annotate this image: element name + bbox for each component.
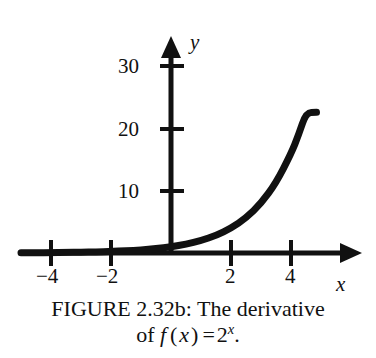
caption-line-1: FIGURE 2.32b: The derivative <box>0 296 376 322</box>
x-axis-label: x <box>336 274 345 295</box>
y-tick-label-30: 30 <box>118 56 139 77</box>
figure-container: −4 −2 2 4 10 20 30 y x FIGURE 2.32b: The… <box>0 0 376 358</box>
y-axis-label: y <box>190 32 199 53</box>
caption-prefix: of <box>136 322 160 347</box>
x-tick-label-minus-4: −4 <box>36 266 58 287</box>
caption-equals-sign: = <box>200 322 216 347</box>
y-tick-label-20: 20 <box>118 119 139 140</box>
graph-svg <box>0 0 376 300</box>
x-tick-label-minus-2: −2 <box>96 266 118 287</box>
figure-caption: FIGURE 2.32b: The derivative of f (x)=2x… <box>0 296 376 348</box>
caption-line-2: of f (x)=2x. <box>0 322 376 348</box>
x-tick-label-2: 2 <box>225 266 236 287</box>
caption-paren-open: ( <box>168 322 179 347</box>
caption-period: . <box>234 322 240 347</box>
y-axis-arrowhead <box>161 36 181 58</box>
x-axis-arrowhead <box>340 243 362 263</box>
caption-paren-close: ) <box>189 322 200 347</box>
plot-area: −4 −2 2 4 10 20 30 y x <box>0 0 376 300</box>
caption-base: 2 <box>217 322 228 347</box>
x-tick-label-4: 4 <box>285 266 296 287</box>
y-tick-label-10: 10 <box>118 181 139 202</box>
caption-variable: x <box>179 322 189 347</box>
